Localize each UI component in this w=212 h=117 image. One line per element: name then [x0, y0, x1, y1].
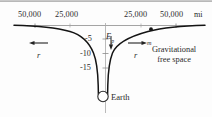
mass-symbol: m	[147, 39, 151, 46]
xtick-label-left-25000: 25,000	[55, 11, 78, 19]
energy-symbol-label: Ep	[106, 26, 114, 45]
energy-symbol-subscript: p	[111, 38, 114, 44]
radius-label-right-group: r	[134, 45, 137, 61]
mass-marker	[149, 27, 153, 31]
earth-text-label: Earth	[111, 93, 130, 102]
ytick-label-minus5: -5	[85, 35, 92, 43]
xtick-label-right-50000: 50,000	[160, 11, 183, 19]
free-space-line-1: Gravitational	[152, 45, 196, 55]
earth-body	[98, 91, 108, 101]
mass-label-group: m	[147, 32, 151, 48]
radius-arrow-left-head	[29, 41, 35, 45]
energy-arrow-head	[109, 45, 113, 51]
x-axis-unit-label: mi	[194, 11, 203, 19]
xtick-label-right-25000: 25,000	[124, 11, 147, 19]
xtick-label-left-50000: 50,000	[18, 11, 41, 19]
ytick-label-minus10: -10	[80, 50, 91, 58]
free-space-line-2: free space	[152, 55, 196, 65]
free-space-label: Gravitational free space	[152, 45, 196, 64]
radius-symbol-right: r	[134, 51, 137, 60]
radius-label-left-group: r	[37, 45, 40, 61]
gravitational-potential-figure: 50,000 25,000 25,000 50,000 mi -5 -10 -1…	[0, 0, 212, 117]
radius-symbol-left: r	[37, 51, 40, 60]
ytick-label-minus15: -15	[80, 64, 91, 72]
